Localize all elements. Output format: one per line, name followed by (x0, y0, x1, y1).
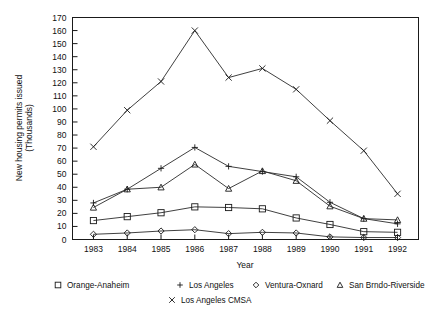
y-axis-title: New housing permits issued(Thousands) (14, 75, 34, 182)
data-point (327, 118, 333, 124)
data-point (259, 65, 265, 71)
plot-frame (73, 18, 419, 240)
legend-marker-square-icon (55, 282, 61, 288)
y-tick-label: 140 (52, 52, 66, 62)
data-point (293, 86, 299, 92)
x-tick-label: 1985 (152, 244, 171, 254)
data-point (226, 163, 232, 169)
data-point (124, 107, 130, 113)
housing-permits-line-chart: New housing permits issued(Thousands) 01… (0, 0, 436, 313)
x-tick-label: 1986 (185, 244, 204, 254)
series-orange-anaheim (90, 204, 400, 236)
data-point (90, 144, 96, 150)
y-tick-label: 40 (57, 182, 67, 192)
data-point (394, 191, 400, 197)
legend-label: Ventura-Oxnard (265, 281, 323, 290)
y-tick-label: 30 (57, 195, 67, 205)
x-tick-label: 1991 (354, 244, 373, 254)
legend-label: Orange-Anaheim (67, 281, 130, 290)
legend-label: Los Angeles CMSA (181, 296, 252, 305)
x-tick-label: 1990 (321, 244, 340, 254)
legend-marker-cross-icon (169, 297, 175, 303)
y-tick-label: 60 (57, 156, 67, 166)
data-point (226, 74, 232, 80)
y-tick-label: 120 (52, 78, 66, 88)
series-los-angeles-cmsa (90, 27, 400, 196)
legend-item: Orange-Anaheim (55, 281, 129, 290)
series-los-angeles (90, 144, 400, 227)
y-tick-label: 150 (52, 39, 66, 49)
y-tick-label: 170 (52, 13, 66, 23)
y-tick-label: 80 (57, 130, 67, 140)
data-point (192, 27, 198, 33)
y-tick-label: 160 (52, 26, 66, 36)
y-axis: 0102030405060708090100110120130140150160… (52, 13, 77, 245)
legend-item: San Brndo-Riverside (337, 281, 425, 290)
y-tick-label: 90 (57, 117, 67, 127)
y-tick-label: 0 (62, 235, 67, 245)
legend-item: Los Angeles CMSA (169, 296, 252, 305)
series-layer (90, 27, 400, 240)
x-tick-label: 1987 (219, 244, 238, 254)
y-tick-label: 10 (57, 221, 67, 231)
legend-marker-diamond-icon (253, 282, 259, 288)
legend-marker-plus-icon (177, 282, 183, 288)
x-tick-label: 1989 (287, 244, 306, 254)
chart-legend: Orange-AnaheimLos AngelesVentura-OxnardS… (55, 281, 425, 305)
legend-item: Los Angeles (177, 281, 233, 290)
y-tick-label: 50 (57, 169, 67, 179)
series-polyline (93, 164, 397, 220)
series-polyline (93, 230, 397, 238)
legend-item: Ventura-Oxnard (253, 281, 323, 290)
y-tick-label: 100 (52, 104, 66, 114)
series-polyline (93, 147, 397, 223)
x-tick-label: 1984 (118, 244, 137, 254)
legend-label: San Brndo-Riverside (349, 281, 425, 290)
data-point (158, 165, 164, 171)
series-ventura-oxnard (90, 227, 400, 241)
legend-label: Los Angeles (189, 281, 234, 290)
data-point (361, 148, 367, 154)
y-axis-title-line2: (Thousands) (24, 104, 34, 152)
y-axis-title-line1: New housing permits issued (14, 75, 24, 182)
y-tick-label: 130 (52, 65, 66, 75)
y-tick-label: 20 (57, 208, 67, 218)
legend-marker-triangle-icon (337, 282, 343, 287)
x-tick-label: 1983 (84, 244, 103, 254)
y-tick-label: 110 (53, 91, 67, 101)
x-tick-label: 1988 (253, 244, 272, 254)
x-tick-label: 1992 (388, 244, 407, 254)
series-polyline (93, 207, 397, 232)
y-tick-label: 70 (57, 143, 67, 153)
chart-container: New housing permits issued(Thousands) 01… (0, 0, 436, 313)
data-point (192, 144, 198, 150)
data-point (158, 78, 164, 84)
x-axis-title: Year (236, 260, 253, 270)
series-san-brndo-riverside (90, 161, 400, 222)
